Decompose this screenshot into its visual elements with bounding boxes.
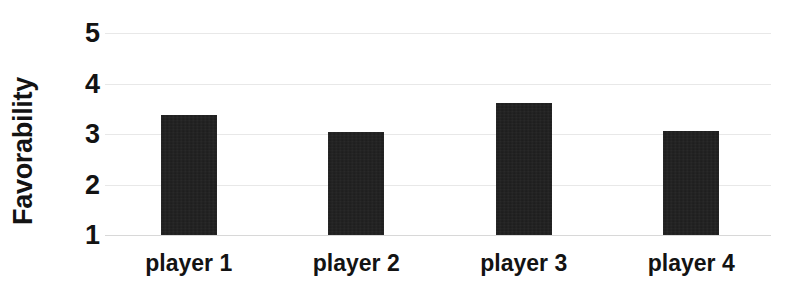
- y-axis-title: Favorability: [0, 0, 46, 302]
- y-axis-tick-label: 1: [56, 222, 100, 249]
- x-axis-tick-label: player 3: [480, 250, 567, 277]
- x-axis-tick-label: player 4: [648, 250, 735, 277]
- bar-chart: Favorability 12345 player 1player 2playe…: [0, 0, 796, 302]
- y-axis-tick-label: 2: [56, 171, 100, 198]
- bar: [161, 115, 217, 235]
- y-axis-tick-label: 4: [56, 70, 100, 97]
- y-axis-tick-label: 3: [56, 121, 100, 148]
- y-axis-tick-labels: 12345: [56, 0, 100, 302]
- bar: [496, 103, 552, 235]
- bar: [328, 132, 384, 235]
- x-axis-tick-label: player 2: [313, 250, 400, 277]
- bar: [663, 131, 719, 235]
- x-axis-tick-label: player 1: [145, 250, 232, 277]
- y-axis-tick-label: 5: [56, 20, 100, 47]
- x-axis-tick-labels: player 1player 2player 3player 4: [105, 250, 775, 290]
